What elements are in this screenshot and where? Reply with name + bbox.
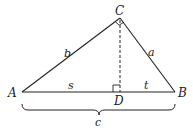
vertex-label-D: D — [113, 94, 124, 108]
side-label-c: c — [95, 116, 101, 129]
vertex-label-C: C — [115, 4, 124, 18]
triangle-diagram: A B C D b a s t c — [0, 0, 193, 132]
vertex-label-B: B — [177, 86, 187, 100]
right-angle-marker-D — [113, 85, 120, 92]
vertex-label-A: A — [7, 86, 17, 100]
side-label-b: b — [64, 47, 71, 60]
side-label-a: a — [148, 46, 155, 59]
segment-label-t: t — [144, 79, 149, 92]
segment-label-s: s — [68, 79, 74, 92]
brace-c — [22, 104, 175, 115]
right-angle-marker-C — [115, 22, 123, 26]
